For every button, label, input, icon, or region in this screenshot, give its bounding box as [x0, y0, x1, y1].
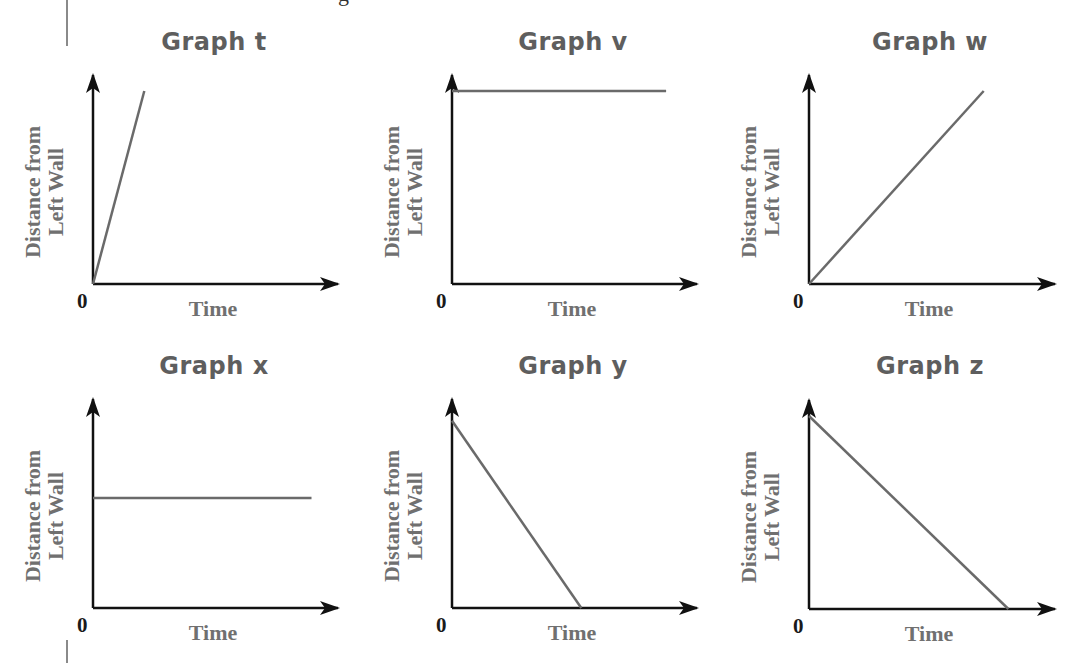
y-axis-label-line: Left Wall [403, 426, 426, 606]
y-axis-label-line: Left Wall [760, 427, 783, 607]
origin-label: 0 [77, 289, 88, 314]
graph-title: Graph w [872, 28, 988, 56]
x-axis-label: Time [548, 620, 596, 646]
y-axis-label: Distance fromLeft Wall [737, 102, 783, 282]
y-axis-label-line: Distance from [737, 427, 760, 607]
graph-title: Graph y [518, 352, 628, 380]
origin-label: 0 [77, 613, 88, 638]
y-axis-label-line: Distance from [21, 426, 44, 606]
y-axis-label-line: Distance from [380, 102, 403, 282]
y-axis-label: Distance fromLeft Wall [380, 426, 426, 606]
data-line [809, 416, 1008, 609]
y-axis-label-line: Distance from [21, 102, 44, 282]
y-axis-label-line: Distance from [737, 102, 760, 282]
x-axis-label: Time [905, 621, 953, 647]
x-axis-label: Time [189, 296, 237, 322]
plots-canvas [0, 0, 1081, 663]
y-axis-label-line: Distance from [380, 426, 403, 606]
graph-t [93, 75, 338, 284]
y-axis-label: Distance fromLeft Wall [380, 102, 426, 282]
y-axis-label-line: Left Wall [44, 426, 67, 606]
graph-title: Graph x [159, 352, 268, 380]
graph-z [809, 400, 1055, 609]
graph-v [452, 75, 697, 284]
y-axis-label: Distance fromLeft Wall [737, 427, 783, 607]
y-axis-label: Distance fromLeft Wall [21, 102, 67, 282]
y-axis-label: Distance fromLeft Wall [21, 426, 67, 606]
graph-title: Graph z [876, 352, 984, 380]
graph-x [93, 399, 338, 608]
x-axis-label: Time [905, 296, 953, 322]
y-axis-label-line: Left Wall [403, 102, 426, 282]
x-axis-label: Time [548, 296, 596, 322]
graph-title: Graph t [161, 28, 266, 56]
data-line [809, 91, 984, 284]
origin-label: 0 [436, 613, 447, 638]
origin-label: 0 [793, 289, 804, 314]
graph-y [452, 399, 697, 608]
graphs-figure: g Graph tDistance fromLeft WallTime0Grap… [0, 0, 1081, 663]
x-axis-label: Time [189, 620, 237, 646]
origin-label: 0 [793, 614, 804, 639]
y-axis-label-line: Left Wall [760, 102, 783, 282]
graph-w [809, 75, 1055, 284]
data-line [452, 421, 581, 608]
y-axis-label-line: Left Wall [44, 102, 67, 282]
data-line [93, 91, 144, 284]
graph-title: Graph v [518, 28, 628, 56]
origin-label: 0 [436, 289, 447, 314]
